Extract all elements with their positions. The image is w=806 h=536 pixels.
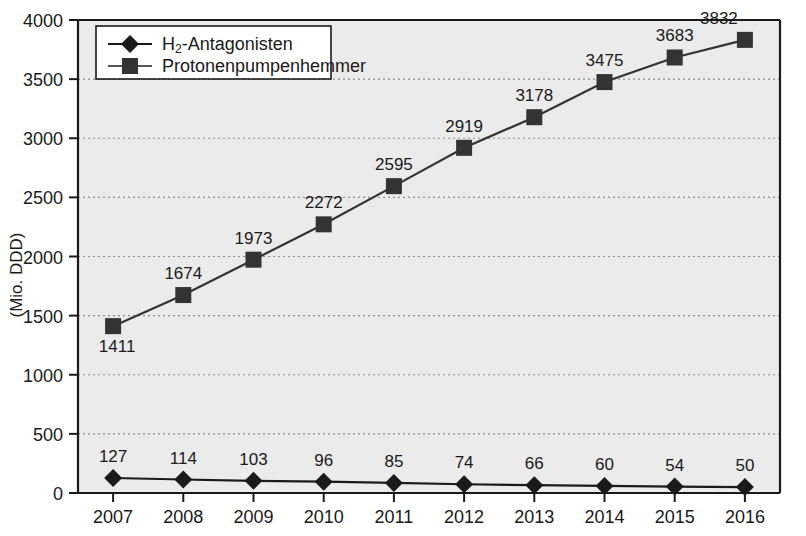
data-point-label: 114: [170, 449, 197, 468]
y-axis-tick-label: 500: [33, 425, 63, 445]
y-axis-title: (Mio. DDD): [7, 233, 26, 318]
x-axis-tick-label: 2009: [233, 507, 273, 527]
x-axis-tick-label: 2013: [514, 507, 554, 527]
y-axis-tick-label: 3500: [23, 70, 63, 90]
legend-label-protonenpumpenhemmer: Protonenpumpenhemmer: [162, 56, 366, 76]
data-point-marker[interactable]: [737, 32, 753, 48]
data-point-label: 85: [384, 452, 403, 471]
legend-label-h2-antagonisten: H2-Antagonisten: [162, 34, 293, 56]
x-axis-tick-label: 2015: [655, 507, 695, 527]
data-point-label: 1973: [235, 229, 273, 248]
data-point-marker[interactable]: [667, 49, 683, 65]
data-point-marker[interactable]: [105, 318, 121, 334]
chart-container: 1411167419732272259529193178347536833832…: [0, 0, 806, 536]
data-point-marker[interactable]: [597, 74, 613, 90]
chart-legend: H2-Antagonisten Protonenpumpenhemmer: [96, 26, 366, 79]
y-axis-tick-label: 1000: [23, 366, 63, 386]
data-point-label: 2595: [375, 155, 413, 174]
data-point-label: 3832: [700, 9, 738, 28]
data-point-marker[interactable]: [316, 216, 332, 232]
x-axis-tick-label: 2012: [444, 507, 484, 527]
data-point-label: 2272: [305, 193, 343, 212]
legend-label-h2-suffix: -Antagonisten: [182, 34, 293, 54]
y-axis-tick-label: 2500: [23, 188, 63, 208]
data-point-label: 66: [525, 454, 544, 473]
data-point-marker[interactable]: [526, 109, 542, 125]
data-point-label: 103: [239, 450, 267, 469]
data-point-marker[interactable]: [386, 178, 402, 194]
data-point-label: 2919: [445, 117, 483, 136]
data-point-label: 3475: [586, 51, 624, 70]
data-point-marker[interactable]: [175, 287, 191, 303]
x-axis-tick-label: 2011: [375, 507, 414, 527]
x-axis-tick-label: 2016: [725, 507, 765, 527]
data-point-label: 1411: [99, 337, 136, 356]
data-point-marker[interactable]: [246, 252, 262, 268]
data-point-label: 96: [314, 451, 333, 470]
y-axis-tick-label: 1500: [23, 307, 63, 327]
data-point-label: 127: [99, 447, 127, 466]
legend-label-h2-prefix: H: [162, 34, 175, 54]
x-axis-tick-label: 2010: [304, 507, 344, 527]
data-point-marker[interactable]: [456, 140, 472, 156]
data-point-label: 3178: [515, 86, 553, 105]
square-marker-icon: [122, 58, 138, 74]
y-axis-tick-label: 3000: [23, 129, 63, 149]
line-chart: 1411167419732272259529193178347536833832…: [0, 0, 806, 536]
y-axis-tick-label: 2000: [23, 248, 63, 268]
data-point-label: 74: [455, 453, 474, 472]
data-point-label: 1674: [164, 264, 202, 283]
x-axis-tick-label: 2007: [93, 507, 133, 527]
x-axis-tick-label: 2014: [584, 507, 624, 527]
data-point-label: 60: [595, 455, 614, 474]
y-axis-tick-label: 0: [53, 484, 63, 504]
data-point-label: 3683: [656, 26, 694, 45]
y-axis-tick-label: 4000: [23, 11, 63, 31]
data-point-label: 50: [735, 456, 754, 475]
x-axis-tick-label: 2008: [163, 507, 203, 527]
data-point-label: 54: [665, 456, 684, 475]
